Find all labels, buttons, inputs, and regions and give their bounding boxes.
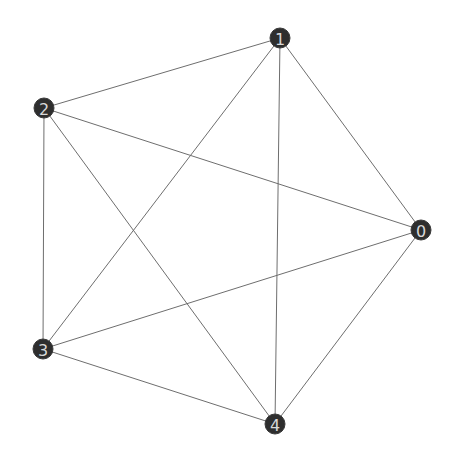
node-3: 3 [33,339,53,360]
edge-2-4 [44,108,275,424]
node-layer: 01234 [33,28,431,435]
edge-0-1 [280,38,421,230]
graph-canvas: 01234 [0,0,457,456]
node-1: 1 [270,28,290,49]
edge-0-2 [44,108,421,230]
node-label: 3 [38,341,48,360]
node-4: 4 [265,414,285,435]
node-label: 1 [275,30,285,49]
edge-0-3 [43,230,421,349]
edge-1-2 [44,38,280,108]
edge-3-4 [43,349,275,424]
edge-2-3 [43,108,44,349]
edge-layer [43,38,421,424]
edge-1-4 [275,38,280,424]
node-label: 2 [39,100,49,119]
edge-1-3 [43,38,280,349]
node-label: 4 [270,416,280,435]
edge-0-4 [275,230,421,424]
node-label: 0 [416,222,426,241]
node-0: 0 [411,220,431,241]
node-2: 2 [34,98,54,119]
